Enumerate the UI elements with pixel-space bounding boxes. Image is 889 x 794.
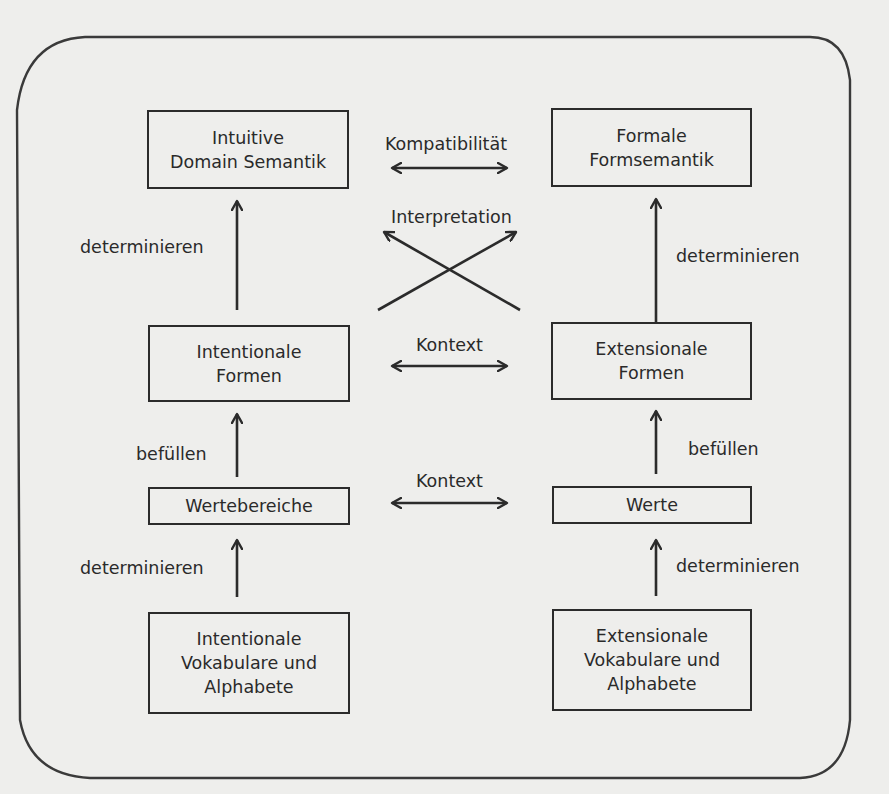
node-label: Formale Formsemantik <box>589 124 714 172</box>
label-left-determinieren-top: determinieren <box>80 236 204 258</box>
node-formale-formsemantik: Formale Formsemantik <box>551 108 752 187</box>
diagram-canvas <box>0 0 889 794</box>
label-right-determinieren-bottom: determinieren <box>676 555 800 577</box>
node-intentionale-vokabulare: Intentionale Vokabulare und Alphabete <box>148 612 350 714</box>
node-label: Intentionale Vokabulare und Alphabete <box>181 627 317 699</box>
node-wertebereiche: Wertebereiche <box>148 487 350 525</box>
interpretation-arrow-up-right <box>378 232 516 310</box>
label-kompatibilitaet: Kompatibilität <box>385 133 507 155</box>
interpretation-arrow-up-left <box>384 232 520 310</box>
node-intuitive-domain-semantik: Intuitive Domain Semantik <box>147 110 349 189</box>
label-left-determinieren-bottom: determinieren <box>80 557 204 579</box>
label-left-befuellen: befüllen <box>136 443 207 465</box>
node-extensionale-formen: Extensionale Formen <box>551 322 752 400</box>
node-werte: Werte <box>552 486 752 524</box>
label-kontext-formen: Kontext <box>416 334 483 356</box>
node-extensionale-vokabulare: Extensionale Vokabulare und Alphabete <box>552 609 752 711</box>
label-right-determinieren-top: determinieren <box>676 245 800 267</box>
node-label: Werte <box>626 493 678 517</box>
node-label: Intuitive Domain Semantik <box>170 126 326 174</box>
label-kontext-werte: Kontext <box>416 470 483 492</box>
node-intentionale-formen: Intentionale Formen <box>148 325 350 402</box>
label-right-befuellen: befüllen <box>688 438 759 460</box>
node-label: Extensionale Vokabulare und Alphabete <box>584 624 720 696</box>
label-interpretation: Interpretation <box>391 206 512 228</box>
node-label: Wertebereiche <box>185 494 313 518</box>
node-label: Intentionale Formen <box>197 340 302 388</box>
node-label: Extensionale Formen <box>595 337 707 385</box>
